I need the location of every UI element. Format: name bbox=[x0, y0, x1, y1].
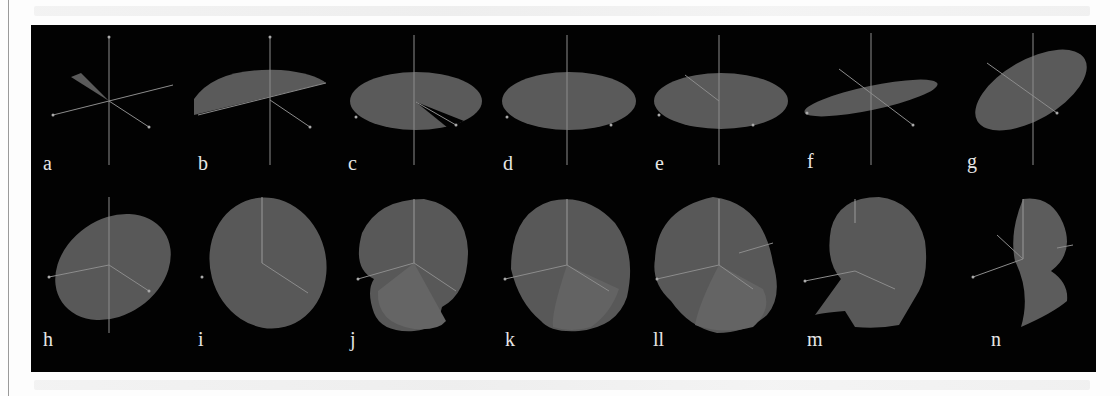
rotated-disc-surface bbox=[643, 25, 795, 195]
faded-body-text-below bbox=[34, 380, 1090, 390]
panel-c: c bbox=[338, 25, 490, 195]
lobed-surface bbox=[947, 193, 1099, 363]
panel-label: e bbox=[655, 153, 664, 173]
panel-f: f bbox=[795, 25, 947, 195]
tilted-thin-disc-surface bbox=[795, 25, 947, 195]
half-disc-surface bbox=[186, 25, 338, 195]
panel-a: a bbox=[33, 25, 185, 195]
panel-h: h bbox=[33, 193, 185, 363]
panel-d: d bbox=[491, 25, 643, 195]
panel-label: d bbox=[503, 153, 513, 173]
panel-e: e bbox=[643, 25, 795, 195]
faded-body-text-above bbox=[34, 6, 1090, 16]
panel-m: m bbox=[795, 193, 947, 363]
wedge-sector-surface bbox=[33, 25, 185, 195]
panel-label: h bbox=[43, 329, 53, 349]
sphere-cut-surface bbox=[643, 193, 795, 363]
panel-b: b bbox=[186, 25, 338, 195]
tilted-ellipsoid-surface bbox=[33, 193, 185, 363]
panel-label: m bbox=[807, 329, 823, 349]
panel-label: ll bbox=[653, 329, 664, 349]
panel-ll: ll bbox=[643, 193, 795, 363]
figure-panel: a b c d bbox=[31, 25, 1096, 372]
panel-label: b bbox=[198, 153, 208, 173]
panel-label: a bbox=[43, 153, 52, 173]
panel-label: f bbox=[807, 151, 814, 171]
panel-j: j bbox=[338, 193, 490, 363]
disc-with-gap-surface bbox=[338, 25, 490, 195]
sphere-wedge-surface bbox=[338, 193, 490, 363]
panel-label: n bbox=[991, 329, 1001, 349]
margin-rule bbox=[8, 0, 9, 396]
panel-i: i bbox=[186, 193, 338, 363]
panel-n: n bbox=[947, 193, 1099, 363]
panel-k: k bbox=[491, 193, 643, 363]
panel-label: k bbox=[505, 329, 515, 349]
panel-label: i bbox=[198, 329, 204, 349]
panel-label: g bbox=[967, 151, 977, 171]
panel-label: j bbox=[350, 329, 356, 349]
panel-label: c bbox=[348, 153, 357, 173]
full-disc-surface bbox=[491, 25, 643, 195]
ellipsoid-surface bbox=[186, 193, 338, 363]
panel-g: g bbox=[947, 25, 1099, 195]
